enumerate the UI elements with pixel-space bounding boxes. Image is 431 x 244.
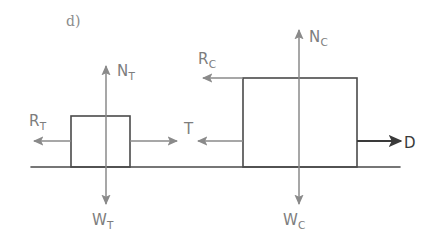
force-label-normal-car-base: N <box>309 28 320 46</box>
force-label-normal-car-sub: C <box>320 36 328 48</box>
force-label-normal-trailer-base: N <box>117 62 128 80</box>
trailer-box <box>71 116 130 167</box>
force-label-weight-car: WC <box>283 211 306 231</box>
force-label-normal-trailer-sub: T <box>127 70 135 82</box>
force-label-normal-car: NC <box>309 28 328 48</box>
force-label-driving-force-base: D <box>404 134 416 152</box>
force-label-driving-force: D <box>404 134 416 152</box>
force-label-resistance-trailer-sub: T <box>39 120 47 132</box>
force-label-resistance-car-base: R <box>198 50 209 68</box>
force-label-resistance-car: RC <box>198 50 216 70</box>
car-box <box>243 78 357 167</box>
force-label-resistance-car-sub: C <box>209 58 217 70</box>
free-body-diagram: d) NT RT WT T <box>0 0 431 244</box>
force-label-tension: T <box>183 120 194 138</box>
force-label-resistance-trailer-base: R <box>29 112 40 130</box>
force-label-weight-trailer-base: W <box>92 211 107 229</box>
force-label-weight-trailer: WT <box>92 211 114 231</box>
force-label-weight-car-base: W <box>283 211 298 229</box>
force-label-weight-car-sub: C <box>298 219 306 231</box>
force-label-resistance-trailer: RT <box>29 112 47 132</box>
panel-label: d) <box>66 13 80 29</box>
force-label-tension-base: T <box>183 120 194 138</box>
force-label-normal-trailer: NT <box>117 62 135 82</box>
diagram-canvas: d) NT RT WT T <box>0 0 431 244</box>
force-label-weight-trailer-sub: T <box>106 219 114 231</box>
